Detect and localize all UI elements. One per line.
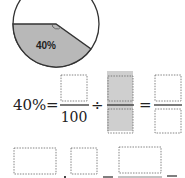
diagram-canvas: 40% 40% = 100 ÷ = <box>0 0 185 178</box>
result-numerator-box[interactable] <box>155 75 181 101</box>
pie-label: 40% <box>36 40 56 51</box>
equals-sign-2: = <box>139 96 152 114</box>
equals-sign: = <box>46 96 59 114</box>
pie-chart: 40% <box>13 0 99 67</box>
numerator-input-box[interactable] <box>61 75 87 101</box>
divide-sign: ÷ <box>91 96 104 114</box>
separator-dot <box>64 176 66 178</box>
equation-lhs: 40% <box>13 96 46 114</box>
answer-box-3[interactable] <box>119 147 161 173</box>
answer-box-1[interactable] <box>14 148 56 174</box>
result-denominator-box[interactable] <box>155 109 181 133</box>
answer-box-2[interactable] <box>71 148 97 174</box>
denominator-100: 100 <box>61 109 88 125</box>
equation: 40% = 100 ÷ = <box>13 75 182 133</box>
bottom-row <box>14 147 177 178</box>
